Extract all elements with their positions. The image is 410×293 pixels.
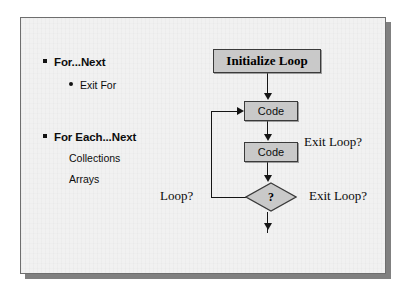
arrowhead-into-decision <box>264 175 272 182</box>
arrowhead-exit-loop <box>264 223 272 230</box>
caption-exit-loop-bottom: Exit Loop? <box>309 188 367 204</box>
flow-node-label: Initialize Loop <box>226 53 307 69</box>
flow-node-code-first[interactable]: Code <box>244 101 298 121</box>
connector-loopback-horizontal-top <box>211 111 239 112</box>
connector-loopback-horizontal-bottom <box>211 197 246 198</box>
connector-loopback-vertical <box>211 111 212 198</box>
flow-node-label: Code <box>258 105 284 117</box>
flow-node-label: Code <box>258 146 284 158</box>
slide-canvas: For...Next Exit For For Each...Next Coll… <box>0 0 410 293</box>
arrowhead-loopback-into-code1 <box>237 107 244 115</box>
flow-node-decision-diamond[interactable]: ? <box>245 182 297 212</box>
connector-code1-to-code2 <box>267 121 268 135</box>
caption-loop-back: Loop? <box>160 188 193 204</box>
arrowhead-into-code2 <box>264 134 272 141</box>
flow-node-initialize-loop[interactable]: Initialize Loop <box>213 49 321 73</box>
flow-node-label: ? <box>245 182 297 212</box>
loop-flowchart: Initialize Loop Code Code ? Exit Loop? E… <box>21 18 387 275</box>
connector-initialize-to-code1 <box>267 73 268 94</box>
presentation-slide: For...Next Exit For For Each...Next Coll… <box>20 17 386 274</box>
arrowhead-into-code1 <box>264 93 272 100</box>
caption-exit-loop-middle: Exit Loop? <box>304 134 362 150</box>
flow-node-code-second[interactable]: Code <box>244 142 298 162</box>
